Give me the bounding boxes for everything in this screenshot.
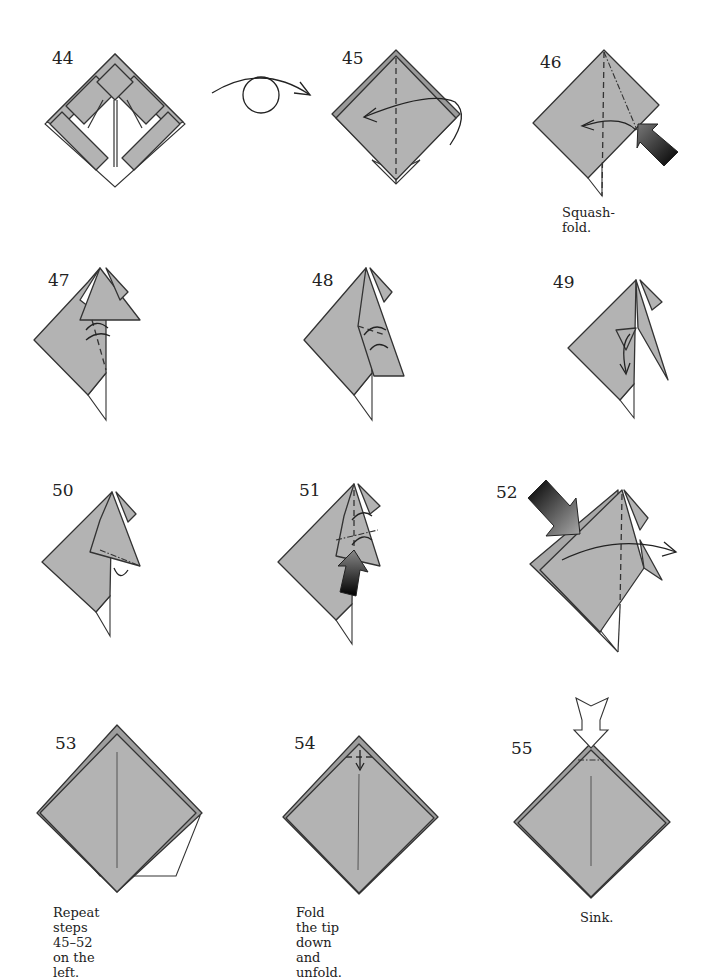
sink-arrow-icon [574,698,608,748]
step-caption: Sink. [580,910,613,925]
